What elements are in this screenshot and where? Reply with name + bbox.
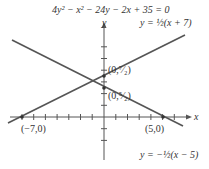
point-neg7-0 <box>20 115 24 119</box>
point-label-0-5-2: (0,⁵⁄₂) <box>108 91 131 101</box>
point-0-7-2 <box>102 74 106 78</box>
y-axis-label: y <box>102 18 106 28</box>
point-label-neg7-0: (−7,0) <box>21 124 46 134</box>
line1-equation: y = ½(x + 7) <box>140 18 192 28</box>
line-y-half-x-plus-7 <box>8 35 185 123</box>
line2-equation: y = −½(x − 5) <box>140 150 198 160</box>
x-axis-label: x <box>194 112 198 122</box>
point-label-5-0: (5,0) <box>145 124 164 134</box>
point-label-0-7-2: (0,⁷⁄₂) <box>108 65 131 75</box>
point-0-5-2 <box>102 86 106 90</box>
line-y-neg-half-x-minus-5 <box>12 40 183 126</box>
hyperbola-equation: 4y² − x² − 24y − 2x + 35 = 0 <box>52 5 170 15</box>
point-5-0 <box>161 115 165 119</box>
x-axis-arrow-icon <box>186 115 192 120</box>
